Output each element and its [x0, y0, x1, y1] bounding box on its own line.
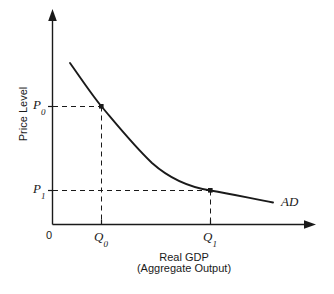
- point-marker-q0-p0: [99, 104, 104, 109]
- p1-letter: P: [33, 181, 41, 196]
- x-axis-arrowhead: [304, 220, 316, 229]
- origin-label: 0: [46, 230, 52, 241]
- ad-curve-label: AD: [281, 195, 298, 208]
- guide-lines-q0-p0: [53, 107, 102, 225]
- q1-letter: Q: [203, 229, 212, 244]
- x-axis-ticks: [102, 220, 211, 225]
- p0-letter: P: [33, 97, 41, 112]
- ad-curve-path: [70, 63, 273, 203]
- ad-curve-figure: Price Level Real GDP (Aggregate Output) …: [0, 0, 334, 294]
- output-q1-label: Q1: [203, 230, 217, 247]
- q0-subscript: 0: [103, 239, 108, 249]
- q1-subscript: 1: [212, 239, 217, 249]
- y-axis: [48, 9, 57, 225]
- point-marker-q1-p1: [208, 188, 213, 193]
- q0-letter: Q: [94, 229, 103, 244]
- price-level-p0-label: P0: [33, 98, 45, 115]
- x-axis: [53, 220, 317, 229]
- p0-subscript: 0: [41, 107, 46, 117]
- figure-canvas: [0, 0, 334, 294]
- guide-lines-q1-p1: [53, 191, 211, 225]
- y-axis-arrowhead: [48, 9, 57, 21]
- x-axis-title-line2: (Aggregate Output): [52, 263, 316, 274]
- p1-subscript: 1: [41, 191, 46, 201]
- price-level-p1-label: P1: [33, 182, 45, 199]
- x-axis-title: Real GDP (Aggregate Output): [52, 252, 316, 274]
- output-q0-label: Q0: [94, 230, 108, 247]
